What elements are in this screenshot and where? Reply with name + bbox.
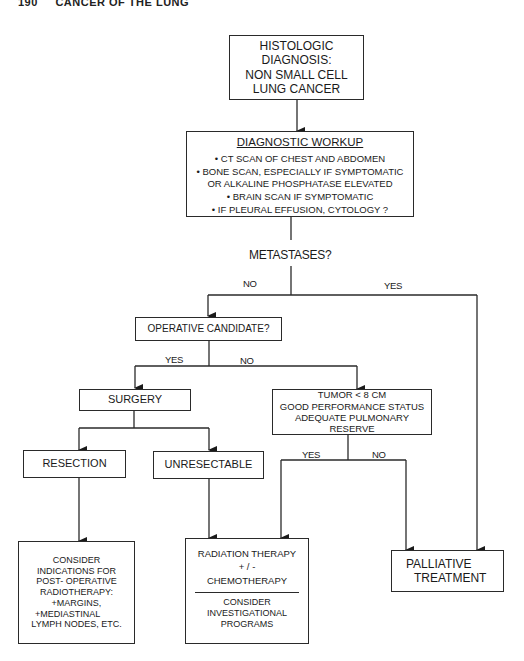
workup-title: DIAGNOSTIC WORKUP [237, 136, 364, 150]
metastases-no-label: NO [243, 278, 257, 289]
workup-item: • IF PLEURAL EFFUSION, CYTOLOGY ? [212, 204, 388, 215]
diagnosis-line-3: LUNG CANCER [253, 82, 340, 96]
histologic-diagnosis-box: HISTOLOGIC DIAGNOSIS: NON SMALL CELL LUN… [229, 35, 364, 100]
metastases-yes-label: YES [384, 280, 402, 291]
diagnostic-workup-box: DIAGNOSTIC WORKUP • CT SCAN OF CHEST AND… [186, 131, 414, 217]
radiation-line: RADIATION THERAPY [198, 548, 296, 559]
criteria-line-2: GOOD PERFORMANCE STATUS [280, 401, 424, 412]
criteria-line-3: ADEQUATE PULMONARY RESERVE [273, 412, 431, 435]
palliative-line: PALLIATIVE [392, 557, 472, 571]
operative-candidate-label: OPERATIVE CANDIDATE? [148, 323, 270, 335]
operative-yes-label: YES [165, 354, 183, 365]
criteria-line-1: TUMOR < 8 CM [318, 389, 386, 400]
postop-line: CONSIDER [53, 555, 101, 566]
postop-line: RADIOTHERAPY: [40, 587, 113, 598]
palliative-line: TREATMENT [392, 571, 486, 585]
unresectable-box: UNRESECTABLE [153, 451, 264, 479]
resection-label: RESECTION [42, 457, 106, 470]
operative-no-label: NO [240, 355, 254, 366]
palliative-treatment-box: PALLIATIVE TREATMENT [391, 550, 504, 592]
surgery-box: SURGERY [79, 389, 191, 411]
postop-line: INDICATIONS FOR [37, 566, 116, 577]
surgery-label: SURGERY [108, 393, 162, 406]
operative-candidate-box: OPERATIVE CANDIDATE? [135, 317, 282, 341]
radiation-therapy-box: RADIATION THERAPY + / - CHEMOTHERAPY CON… [185, 538, 309, 644]
postop-line: +MARGINS, [52, 598, 102, 609]
radiation-line: + / - [239, 561, 256, 572]
criteria-box: TUMOR < 8 CM GOOD PERFORMANCE STATUS ADE… [272, 389, 432, 435]
investigational-line: CONSIDER [223, 597, 271, 608]
investigational-line: INVESTIGATIONAL [207, 608, 287, 619]
workup-item: OR ALKALINE PHOSPHATASE ELEVATED [207, 178, 392, 189]
postop-line: +MEDIASTINAL [19, 609, 100, 620]
postop-radiotherapy-box: CONSIDER INDICATIONS FOR POST- OPERATIVE… [18, 541, 135, 644]
workup-item: • BONE SCAN, ESPECIALLY IF SYMPTOMATIC [197, 166, 404, 177]
resection-box: RESECTION [23, 450, 126, 478]
postop-line: LYMPH NODES, ETC. [31, 619, 121, 630]
diagnosis-line-2: NON SMALL CELL [245, 68, 347, 82]
unresectable-label: UNRESECTABLE [165, 458, 253, 471]
criteria-yes-label: YES [302, 449, 320, 460]
diagnosis-line-1: HISTOLOGIC DIAGNOSIS: [230, 39, 363, 68]
radiation-divider [195, 592, 299, 593]
metastases-question: METASTASES? [249, 248, 331, 262]
radiation-line: CHEMOTHERAPY [207, 575, 287, 586]
workup-item: • CT SCAN OF CHEST AND ABDOMEN [215, 153, 385, 164]
postop-line: POST- OPERATIVE [36, 576, 116, 587]
investigational-line: PROGRAMS [221, 619, 274, 630]
workup-item: • BRAIN SCAN IF SYMPTOMATIC [227, 191, 374, 202]
criteria-no-label: NO [372, 449, 386, 460]
